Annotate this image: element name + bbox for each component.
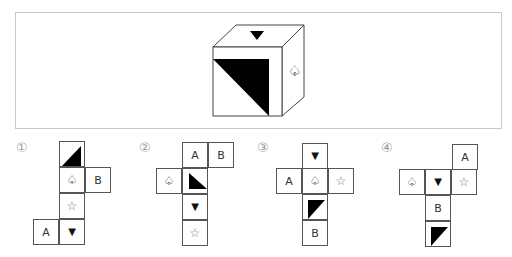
triangle-down-icon: ▼ <box>191 202 199 212</box>
net-cell: ▼ <box>302 143 328 169</box>
net-cell <box>59 141 85 167</box>
star-icon: ☆ <box>190 227 201 239</box>
net-cell: A <box>33 219 59 245</box>
letter-a: A <box>191 150 199 161</box>
option-1-number[interactable]: ① <box>16 141 28 154</box>
net-cell: ☆ <box>59 193 85 219</box>
triangle-down-icon: ▼ <box>311 151 319 161</box>
spade-icon: ♤ <box>164 175 175 187</box>
net-cell: A <box>182 142 208 168</box>
letter-b: B <box>217 150 225 161</box>
spade-icon: ♤ <box>310 175 321 187</box>
net-cell: A <box>276 168 302 194</box>
star-icon: ☆ <box>459 176 470 188</box>
star-icon: ☆ <box>336 175 347 187</box>
letter-b: B <box>94 175 102 186</box>
net-cell: ♤ <box>302 168 328 194</box>
spade-icon: ♤ <box>288 62 301 80</box>
net-cell: ☆ <box>182 220 208 246</box>
net-cell: ☆ <box>328 168 354 194</box>
letter-a: A <box>285 176 293 187</box>
net-cell <box>425 221 451 247</box>
star-icon: ☆ <box>67 200 78 212</box>
net-cell: B <box>208 142 234 168</box>
black-triangle-icon <box>60 142 86 168</box>
net-cell: ♤ <box>156 168 182 194</box>
option-4-number[interactable]: ④ <box>381 141 393 154</box>
net-cell: B <box>85 167 111 193</box>
letter-a: A <box>42 227 50 238</box>
net-cell <box>302 194 328 220</box>
triangle-down-icon: ▼ <box>434 177 442 187</box>
net-cell: ▼ <box>59 219 85 245</box>
net-cell: ♤ <box>399 169 425 195</box>
option-3-number[interactable]: ③ <box>257 141 269 154</box>
net-cell: ▼ <box>425 169 451 195</box>
net-cell: A <box>452 144 478 170</box>
black-triangle-icon <box>303 195 329 221</box>
net-cell: ▼ <box>182 194 208 220</box>
net-cell: B <box>302 220 328 246</box>
spade-icon: ♤ <box>407 176 418 188</box>
net-cell: B <box>425 195 451 221</box>
net-cell: ☆ <box>451 169 477 195</box>
letter-b: B <box>434 203 442 214</box>
black-triangle-icon <box>183 169 209 195</box>
spade-icon: ♤ <box>67 174 78 186</box>
net-cell: ♤ <box>59 167 85 193</box>
net-cell <box>182 168 208 194</box>
triangle-down-icon: ▼ <box>68 227 76 237</box>
letter-a: A <box>461 152 469 163</box>
option-2-number[interactable]: ② <box>139 141 151 154</box>
black-triangle-icon <box>426 222 452 248</box>
letter-b: B <box>311 228 319 239</box>
